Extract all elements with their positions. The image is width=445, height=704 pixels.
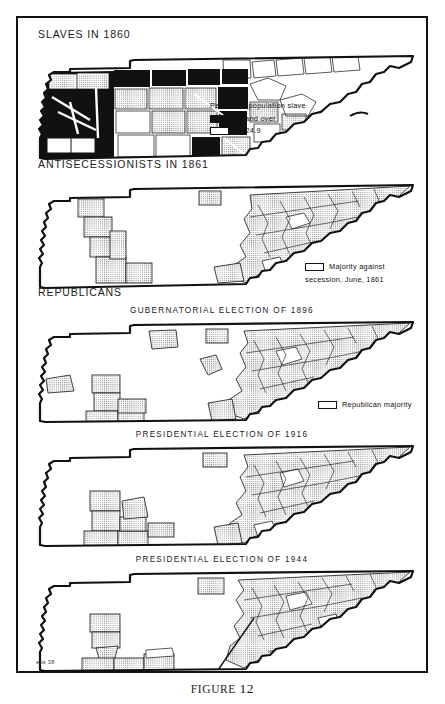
legend-label-majority-against: Majority against: [329, 262, 385, 273]
figure-caption-number: 12: [239, 681, 254, 696]
legend-row-25-and-over: 25 and over: [210, 114, 306, 125]
legend-row-majority-against: Majority against: [305, 262, 385, 273]
section-heading-antisecessionists: ANTISECESSIONISTS IN 1861: [38, 158, 209, 170]
tennessee-map-presidential-1944: [18, 566, 430, 676]
tennessee-map-presidential-1916: [18, 441, 430, 551]
legend-label-secession-date: secession, June, 1861: [305, 275, 385, 286]
map-presidential-1916: [18, 441, 430, 551]
legend-label-15-24: 15-24.9: [234, 126, 261, 137]
section-heading-slaves: SLAVES IN 1860: [38, 28, 130, 40]
map-title-gubernatorial-1896: GUBERNATORIAL ELECTION OF 1896: [18, 306, 426, 315]
section-heading-republicans: REPUBLICANS: [38, 286, 122, 298]
plate-mark: eps 38: [36, 659, 55, 665]
legend-antisecessionists: Majority against secession, June, 1861: [305, 260, 385, 285]
legend-label-republican-majority: Republican majority: [342, 400, 412, 411]
figure-caption-label: FIGURE: [191, 683, 236, 695]
legend-label-25-and-over: 25 and over: [234, 114, 276, 125]
legend-slaves-1860: Percent of population slave 25 and over …: [210, 101, 306, 137]
figure-caption: FIGURE 12: [0, 681, 445, 697]
swatch-stipple-icon: [318, 401, 337, 409]
map-title-presidential-1944: PRESIDENTIAL ELECTION OF 1944: [18, 555, 426, 564]
swatch-stipple-icon: [210, 127, 229, 135]
legend-republican-majority: Republican majority: [318, 398, 412, 411]
map-presidential-1944: [18, 566, 430, 676]
swatch-solid-icon: [210, 115, 229, 123]
map-gubernatorial-1896: [18, 317, 430, 427]
legend-row-republican-majority: Republican majority: [318, 400, 412, 411]
legend-row-15-24: 15-24.9: [210, 126, 306, 137]
tennessee-map-gubernatorial-1896: [18, 317, 430, 427]
legend-title-slaves: Percent of population slave: [210, 101, 306, 112]
figure-frame: SLAVES IN 1860: [16, 16, 428, 673]
swatch-stipple-icon: [305, 263, 324, 271]
map-title-presidential-1916: PRESIDENTIAL ELECTION OF 1916: [18, 430, 426, 439]
